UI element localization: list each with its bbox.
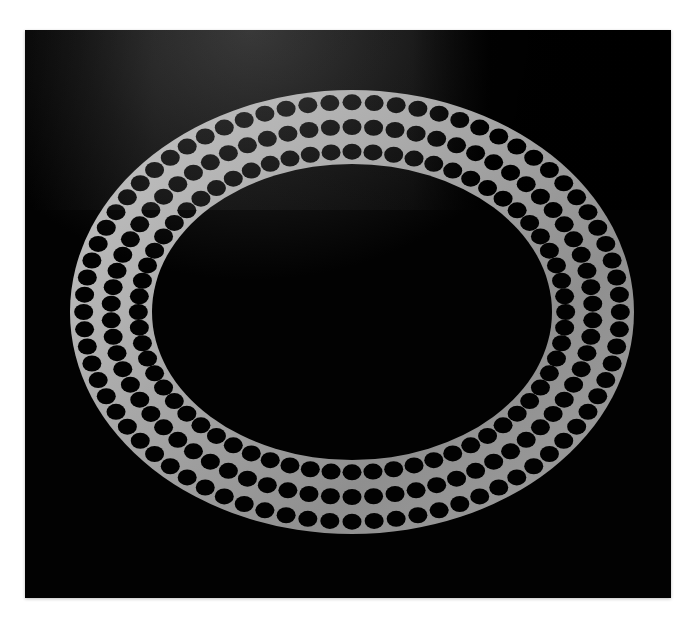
perforated-ring bbox=[0, 0, 691, 622]
